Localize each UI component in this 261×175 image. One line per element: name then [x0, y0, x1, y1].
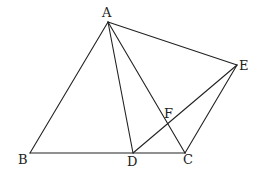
label-E: E	[239, 58, 249, 73]
label-A: A	[101, 5, 112, 20]
label-C: C	[183, 152, 193, 167]
label-B: B	[18, 152, 28, 167]
segment-AC	[108, 22, 185, 153]
segment-AD	[108, 22, 133, 153]
labels: A B C D E F	[18, 5, 249, 169]
segment-AB	[30, 22, 108, 153]
label-F: F	[164, 106, 173, 121]
segments	[30, 22, 237, 153]
label-D: D	[127, 154, 137, 169]
segment-AE	[108, 22, 237, 65]
geometry-diagram: A B C D E F	[0, 0, 261, 175]
segment-EC	[185, 65, 237, 153]
segment-DE	[133, 65, 237, 153]
